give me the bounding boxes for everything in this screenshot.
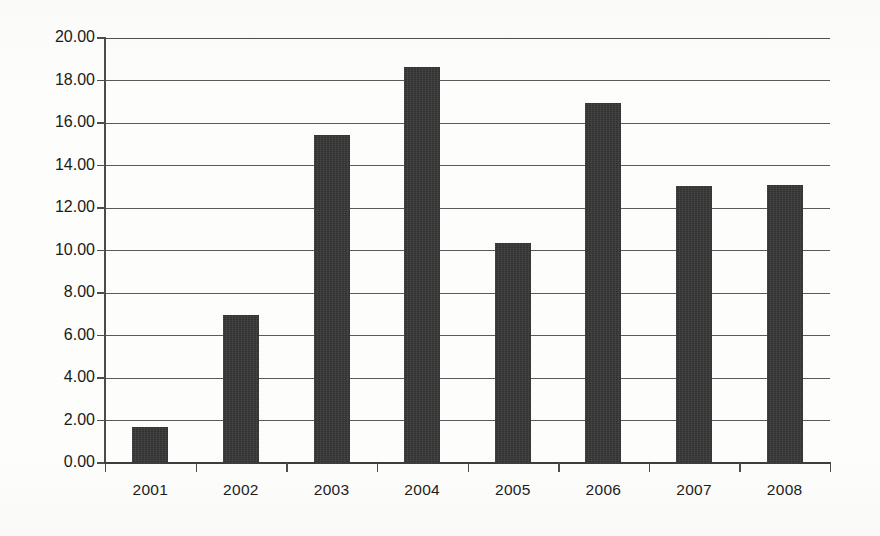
- y-axis-label: 18.00: [10, 71, 95, 89]
- bar: [676, 186, 712, 463]
- y-axis-label: 20.00: [10, 28, 95, 46]
- y-axis-label: 10.00: [10, 241, 95, 259]
- x-axis-label: 2002: [196, 481, 287, 499]
- y-axis-label: 2.00: [10, 411, 95, 429]
- x-axis-label: 2001: [105, 481, 196, 499]
- x-axis-label: 2006: [558, 481, 649, 499]
- x-axis-label: 2003: [286, 481, 377, 499]
- bar: [223, 315, 259, 463]
- y-axis-label: 16.00: [10, 113, 95, 131]
- x-axis-label: 2004: [377, 481, 468, 499]
- x-axis-tick: [558, 463, 559, 472]
- bar: [495, 243, 531, 463]
- plot-area: [105, 38, 830, 463]
- x-axis-tick: [830, 463, 831, 472]
- y-axis-label: 4.00: [10, 368, 95, 386]
- x-axis-label: 2007: [649, 481, 740, 499]
- bar: [132, 427, 168, 463]
- y-axis-label: 6.00: [10, 326, 95, 344]
- x-axis-label: 2005: [468, 481, 559, 499]
- y-axis-label: 8.00: [10, 283, 95, 301]
- y-axis-label: 0.00: [10, 453, 95, 471]
- x-axis-tick: [196, 463, 197, 472]
- x-axis-tick: [468, 463, 469, 472]
- y-axis-label: 14.00: [10, 156, 95, 174]
- x-axis-tick: [105, 463, 106, 472]
- bar: [585, 103, 621, 463]
- bar: [767, 185, 803, 463]
- bar: [314, 135, 350, 463]
- bar: [404, 67, 440, 463]
- bar-chart: 0.002.004.006.008.0010.0012.0014.0016.00…: [0, 0, 880, 536]
- x-axis-tick: [739, 463, 740, 472]
- y-axis-label: 12.00: [10, 198, 95, 216]
- x-axis-label: 2008: [739, 481, 830, 499]
- x-axis-tick: [649, 463, 650, 472]
- x-axis-tick: [286, 463, 287, 472]
- x-axis-tick: [377, 463, 378, 472]
